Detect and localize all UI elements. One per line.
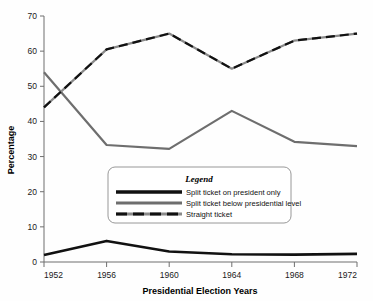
- line-chart: 010203040506070 195219561960196419681972…: [0, 0, 373, 301]
- legend-entry-label: Split ticket below presidential level: [186, 199, 302, 208]
- y-axis-title: Percentage: [6, 126, 16, 175]
- y-tick-label: 60: [28, 46, 38, 56]
- legend-entry-label: Split ticket on president only: [186, 188, 281, 197]
- y-tick-label: 30: [28, 152, 38, 162]
- legend-entry-label: Straight ticket: [186, 210, 233, 219]
- x-tick-label: 1968: [285, 270, 304, 280]
- x-axis-title: Presidential Election Years: [143, 286, 258, 296]
- y-tick-label: 40: [28, 116, 38, 126]
- chart-background: [0, 0, 373, 301]
- x-tick-label: 1952: [44, 270, 63, 280]
- legend-title: Legend: [184, 174, 213, 184]
- y-tick-label: 20: [28, 187, 38, 197]
- x-tick-label: 1956: [97, 270, 116, 280]
- chart-container: 010203040506070 195219561960196419681972…: [0, 0, 373, 301]
- y-tick-label: 50: [28, 81, 38, 91]
- y-tick-label: 0: [32, 257, 37, 267]
- chart-legend: Legend Split ticket on president onlySpl…: [108, 167, 302, 223]
- x-tick-label: 1972: [338, 270, 357, 280]
- top-edge-artifact: [0, 0, 373, 9]
- y-tick-label: 70: [28, 11, 38, 21]
- x-tick-label: 1960: [160, 270, 179, 280]
- x-tick-label: 1964: [222, 270, 241, 280]
- y-tick-label: 10: [28, 222, 38, 232]
